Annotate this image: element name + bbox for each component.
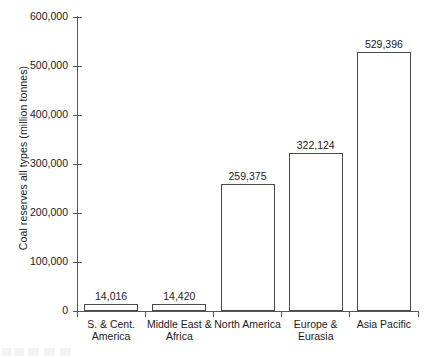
y-tick-mark bbox=[73, 262, 82, 263]
category-label-line: Africa bbox=[134, 330, 224, 342]
y-tick-label: 200,000 bbox=[0, 207, 68, 218]
y-tick-mark bbox=[73, 213, 82, 214]
x-tick-mark bbox=[281, 311, 282, 317]
y-tick-mark bbox=[73, 311, 82, 312]
category-label-line: Asia Pacific bbox=[339, 318, 425, 330]
bar-chart: Coal reserves all types (million tonnes)… bbox=[0, 0, 425, 358]
bar-2 bbox=[152, 304, 206, 311]
y-tick-label: 500,000 bbox=[0, 60, 68, 71]
bar-5 bbox=[357, 52, 411, 311]
y-tick-label: 300,000 bbox=[0, 158, 68, 169]
bar-value-label: 322,124 bbox=[271, 139, 361, 151]
x-tick-mark bbox=[349, 311, 350, 317]
y-tick-mark bbox=[73, 115, 82, 116]
x-tick-mark bbox=[77, 311, 78, 317]
bar-value-label: 259,375 bbox=[203, 170, 293, 182]
category-label-line: Eurasia bbox=[271, 330, 361, 342]
bar-value-label: 14,420 bbox=[134, 290, 224, 302]
y-tick-mark bbox=[73, 164, 82, 165]
y-tick-label: 100,000 bbox=[0, 256, 68, 267]
y-tick-mark bbox=[73, 17, 82, 18]
y-tick-label: 400,000 bbox=[0, 109, 68, 120]
bar-3 bbox=[221, 184, 275, 311]
x-tick-mark bbox=[213, 311, 214, 317]
category-label-5: Asia Pacific bbox=[339, 318, 425, 330]
y-tick-label: 0 bbox=[0, 305, 68, 316]
y-tick-mark bbox=[73, 66, 82, 67]
x-axis-line bbox=[77, 311, 418, 312]
scan-artifact-strip bbox=[2, 348, 74, 356]
bar-4 bbox=[289, 153, 343, 311]
bar-value-label: 529,396 bbox=[339, 38, 425, 50]
x-tick-mark bbox=[145, 311, 146, 317]
bar-1 bbox=[84, 304, 138, 311]
y-tick-label: 600,000 bbox=[0, 11, 68, 22]
x-tick-mark bbox=[418, 311, 419, 317]
